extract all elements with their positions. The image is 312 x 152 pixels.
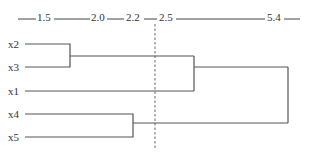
- leaf-label: x5: [8, 131, 20, 143]
- leaf-label: x4: [8, 108, 20, 120]
- tick-label: 2.2: [126, 11, 140, 23]
- leaf-labels: x2 x3 x1 x4 x5: [8, 38, 20, 143]
- tick-label: 1.5: [37, 11, 51, 23]
- leaf-label: x2: [8, 38, 19, 50]
- tick-label: 5.4: [267, 11, 281, 23]
- dendrogram: 1.5 2.0 2.2 2.5 5.4 x2 x3 x1 x4 x5: [0, 0, 312, 152]
- branches: [25, 44, 288, 137]
- leaf-label: x1: [8, 85, 19, 97]
- tick-label: 2.0: [91, 11, 105, 23]
- branch-x2-x3: [25, 44, 70, 67]
- leaf-label: x3: [8, 61, 20, 73]
- scale-ticks: 1.5 2.0 2.2 2.5 5.4: [37, 11, 281, 23]
- branch-x4-x5: [25, 114, 133, 137]
- tick-label: 2.5: [159, 11, 173, 23]
